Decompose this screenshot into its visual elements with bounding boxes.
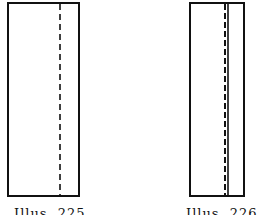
illustrations-canvas bbox=[0, 0, 264, 215]
figure-226 bbox=[190, 3, 244, 196]
figure-225 bbox=[8, 3, 79, 196]
caption-illus-225: Illus. 225 bbox=[14, 206, 86, 215]
paper-strip-outline bbox=[190, 3, 244, 196]
caption-illus-226: Illus. 226 bbox=[186, 206, 258, 215]
paper-strip-outline bbox=[8, 3, 79, 196]
